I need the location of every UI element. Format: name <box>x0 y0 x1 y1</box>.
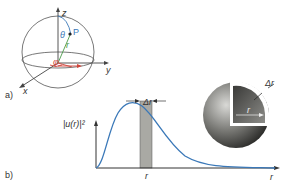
delta-r-band-label: Δr <box>142 97 153 107</box>
x-axis-b-label: r <box>270 172 274 182</box>
phi-label: φ <box>53 57 59 67</box>
y-axis-b-label: |u(r)|² <box>63 119 86 129</box>
y-label: y <box>105 65 111 75</box>
theta-label: θ <box>60 30 65 40</box>
part-b-label: b) <box>5 170 13 180</box>
shell-thickness-label: Δr <box>264 78 275 88</box>
band-position-label: r <box>145 171 149 181</box>
spherical-shell: Δr r <box>203 78 275 148</box>
r-label: r <box>66 40 70 50</box>
delta-r-right-arrow-icon <box>152 99 157 103</box>
point-p <box>68 32 71 35</box>
z-label: z <box>61 8 67 18</box>
part-a-label: a) <box>5 90 13 100</box>
phi-arrow-icon <box>77 64 82 68</box>
delta-r-left-arrow-icon <box>135 99 140 103</box>
x-label: x <box>22 86 28 96</box>
y-axis-b-arrow-icon <box>94 120 98 126</box>
p-label: P <box>73 27 79 37</box>
figure: z y x θ P r φ a) Δr |u(r)|² r r b) <box>0 0 286 185</box>
z-axis-arrow-icon <box>56 7 60 12</box>
shaded-band <box>140 101 152 168</box>
spherical-coordinates-diagram: z y x θ P r φ a) <box>5 7 111 100</box>
